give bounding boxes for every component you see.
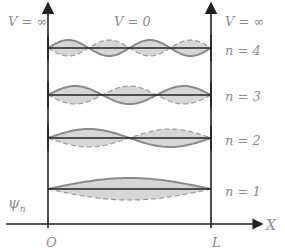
psi-subscript: n bbox=[20, 204, 26, 214]
length-label: L bbox=[212, 236, 221, 249]
level-label-n1: n = 1 bbox=[225, 185, 261, 198]
origin-label: O bbox=[46, 236, 57, 249]
x-axis-label: X bbox=[266, 218, 276, 232]
level-label-n4: n = 4 bbox=[225, 44, 261, 57]
psi-symbol: ψ bbox=[8, 194, 20, 212]
level-label-n3: n = 3 bbox=[225, 90, 261, 103]
v-middle-label: V = 0 bbox=[114, 15, 151, 28]
level-label-n2: n = 2 bbox=[225, 134, 261, 147]
wavefunction-group bbox=[48, 35, 211, 200]
psi-label: ψn bbox=[8, 196, 26, 214]
infinite-well-diagram bbox=[0, 0, 285, 250]
v-right-label: V = ∞ bbox=[225, 15, 264, 28]
v-left-label: V = ∞ bbox=[8, 15, 47, 28]
